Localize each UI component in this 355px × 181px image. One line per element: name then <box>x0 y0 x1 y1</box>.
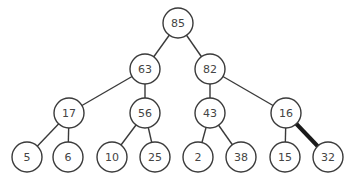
tree-node: 16 <box>271 98 301 128</box>
node-label: 2 <box>195 151 202 164</box>
tree-node: 85 <box>163 8 193 38</box>
tree-node: 56 <box>130 98 160 128</box>
tree-node: 25 <box>140 142 170 172</box>
tree-node: 6 <box>53 142 83 172</box>
tree-node: 15 <box>270 142 300 172</box>
node-label: 15 <box>278 151 292 164</box>
node-label: 38 <box>234 151 248 164</box>
tree-node: 2 <box>183 142 213 172</box>
node-label: 5 <box>24 151 31 164</box>
tree-node: 5 <box>12 142 42 172</box>
node-label: 82 <box>203 63 217 76</box>
node-label: 32 <box>321 151 335 164</box>
tree-node: 38 <box>226 142 256 172</box>
node-label: 85 <box>171 17 185 30</box>
node-label: 16 <box>279 107 293 120</box>
binary-tree-diagram: 856382175643165610252381532 <box>0 0 355 181</box>
tree-node: 10 <box>97 142 127 172</box>
node-label: 63 <box>138 63 152 76</box>
node-label: 10 <box>105 151 119 164</box>
node-label: 56 <box>138 107 152 120</box>
node-label: 17 <box>62 107 76 120</box>
tree-node: 82 <box>195 54 225 84</box>
tree-nodes: 856382175643165610252381532 <box>12 8 343 172</box>
tree-node: 63 <box>130 54 160 84</box>
node-label: 43 <box>203 107 217 120</box>
tree-node: 32 <box>313 142 343 172</box>
node-label: 6 <box>65 151 72 164</box>
tree-node: 43 <box>195 98 225 128</box>
tree-node: 17 <box>54 98 84 128</box>
tree-edges <box>27 23 328 157</box>
node-label: 25 <box>148 151 162 164</box>
